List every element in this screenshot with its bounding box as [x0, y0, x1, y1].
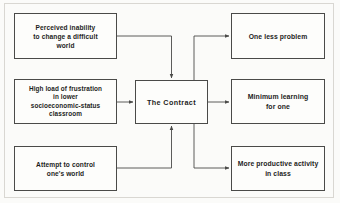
- node-the-contract: The Contract: [135, 80, 208, 124]
- connector-contract-to-one-less-problem: [194, 36, 229, 80]
- node-high-load-frustration-label: High load of frustration in lower socioe…: [26, 85, 105, 119]
- node-more-productive: More productive activity in class: [231, 146, 325, 191]
- node-attempt-control-label: Attempt to control one's world: [33, 160, 98, 178]
- node-high-load-frustration: High load of frustration in lower socioe…: [14, 79, 117, 124]
- node-minimum-learning-label: Minimum learning for one: [245, 92, 312, 111]
- node-perceived-inability-label: Perceived inability to change a difficul…: [30, 23, 100, 50]
- node-one-less-problem: One less problem: [231, 13, 325, 59]
- connector-contract-to-more-productive: [194, 124, 229, 168]
- node-perceived-inability: Perceived inability to change a difficul…: [14, 13, 117, 59]
- diagram-canvas: Perceived inability to change a difficul…: [0, 0, 340, 203]
- node-one-less-problem-label: One less problem: [246, 32, 311, 41]
- node-attempt-control: Attempt to control one's world: [14, 146, 117, 191]
- node-more-productive-label: More productive activity in class: [235, 159, 322, 177]
- connector-attempt-control-to-contract: [117, 126, 172, 168]
- node-minimum-learning: Minimum learning for one: [231, 79, 325, 124]
- node-the-contract-label: The Contract: [144, 98, 199, 107]
- connector-perceived-inability-to-contract: [117, 36, 172, 78]
